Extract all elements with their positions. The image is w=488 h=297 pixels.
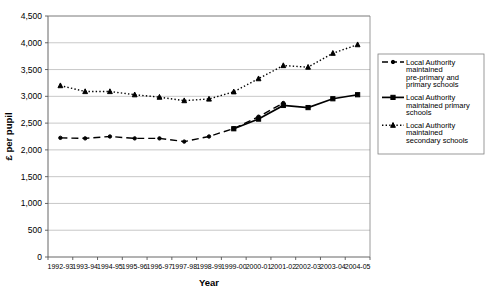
y-tick-label: 3,000 — [21, 91, 43, 101]
data-point-marker — [182, 98, 187, 103]
data-point-marker — [183, 140, 186, 143]
data-point-marker — [306, 105, 310, 109]
data-point-marker — [356, 93, 360, 97]
x-tick-label: 1995-96 — [122, 263, 148, 270]
y-tick-label: 0 — [37, 252, 42, 262]
x-axis-title-label: Year — [199, 277, 219, 288]
y-tick-label: 4,500 — [21, 11, 43, 21]
x-tick-label: 1993-94 — [72, 263, 98, 270]
y-tick-label: 4,000 — [21, 38, 43, 48]
x-tick-label: 1992-93 — [48, 263, 74, 270]
y-tick-label: 1,000 — [21, 198, 43, 208]
y-tick-label: 2,500 — [21, 118, 43, 128]
data-point-marker — [157, 94, 162, 99]
data-point-marker — [59, 136, 62, 139]
data-point-marker — [108, 89, 113, 94]
data-point-marker — [391, 60, 394, 63]
y-tick-label: 500 — [28, 225, 42, 235]
data-point-marker — [133, 137, 136, 140]
x-tick-label: 2002-03 — [295, 263, 321, 270]
x-tick-label: 2003-04 — [320, 263, 346, 270]
data-point-marker — [281, 103, 285, 107]
data-point-marker — [331, 97, 335, 101]
data-point-marker — [281, 63, 286, 68]
y-tick-label: 2,000 — [21, 145, 43, 155]
legend-item-label: secondary schools — [406, 136, 468, 145]
data-series — [58, 42, 360, 103]
data-point-marker — [83, 137, 86, 140]
data-point-marker — [232, 127, 236, 131]
legend-item-label: primary schools — [406, 80, 459, 89]
chart-container: 05001,0001,5002,0002,5003,0003,5004,0004… — [0, 0, 488, 297]
x-tick-label: 1997-98 — [171, 263, 197, 270]
x-tick-label: 2000-01 — [246, 263, 272, 270]
series-group — [58, 42, 360, 143]
data-point-marker — [306, 64, 311, 69]
series-line — [60, 45, 357, 101]
data-point-marker — [108, 135, 111, 138]
x-axis-title: Year — [199, 277, 219, 288]
gridlines-group — [48, 16, 370, 230]
legend-item-label: schools — [406, 108, 432, 117]
data-series — [232, 93, 360, 131]
data-point-marker — [231, 89, 236, 94]
data-point-marker — [207, 96, 212, 101]
series-line — [234, 95, 358, 129]
x-tick-label: 2001-02 — [270, 263, 296, 270]
x-tick-label: 1994-95 — [97, 263, 123, 270]
x-tick-label: 1996-97 — [147, 263, 173, 270]
data-point-marker — [330, 51, 335, 56]
x-tick-label: 1998-99 — [196, 263, 222, 270]
y-tick-label: 3,500 — [21, 65, 43, 75]
chart-legend[interactable]: Local Authoritymaintainedpre-primary and… — [378, 54, 484, 154]
data-point-marker — [207, 135, 210, 138]
line-chart: 05001,0001,5002,0002,5003,0003,5004,0004… — [0, 0, 488, 297]
y-axis-group: 05001,0001,5002,0002,5003,0003,5004,0004… — [21, 11, 48, 262]
data-point-marker — [132, 92, 137, 97]
data-point-marker — [256, 76, 261, 81]
y-tick-label: 1,500 — [21, 172, 43, 182]
data-point-marker — [256, 117, 260, 121]
x-tick-label: 2004-05 — [345, 263, 371, 270]
data-point-marker — [158, 137, 161, 140]
y-axis-title: £ per pupil — [3, 112, 14, 160]
x-axis-group: 1992-931993-941994-951995-961996-971997-… — [48, 257, 371, 270]
y-axis-title-label: £ per pupil — [3, 112, 14, 160]
data-point-marker — [58, 83, 63, 88]
data-point-marker — [83, 89, 88, 94]
x-tick-label: 1999-00 — [221, 263, 247, 270]
data-point-marker — [391, 95, 395, 99]
